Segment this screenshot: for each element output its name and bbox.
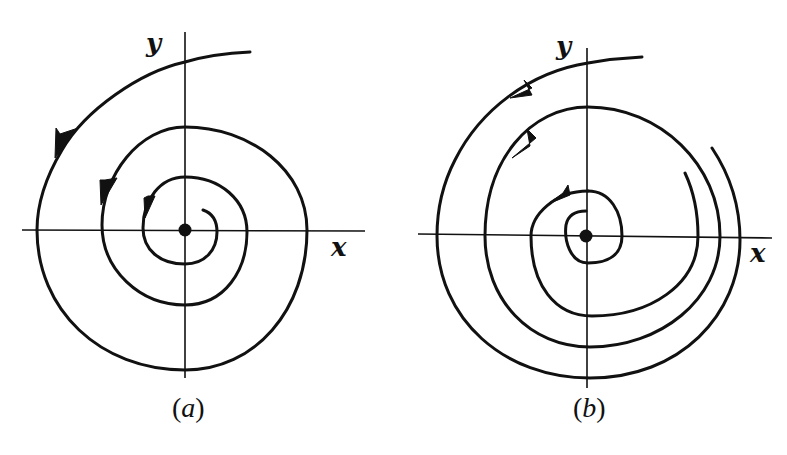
panel-a: y x (a) <box>22 28 365 423</box>
arrow-icon <box>548 185 570 204</box>
spiral-trajectory-b-middle <box>485 107 720 347</box>
arrow-icon <box>144 196 155 218</box>
arrow-icon <box>55 128 78 158</box>
arrow-icon <box>100 178 117 205</box>
spiral-trajectory-b-inner <box>531 173 698 316</box>
equilibrium-point-b <box>580 230 593 243</box>
x-axis-a <box>22 230 365 231</box>
y-axis-label-b: y <box>555 31 573 61</box>
x-axis-label-b: x <box>749 238 766 268</box>
caption-b: (b) <box>573 392 606 423</box>
spiral-trajectory-b-core <box>566 191 622 263</box>
y-axis-label-a: y <box>145 28 163 58</box>
panel-b: y x (b) <box>418 31 772 423</box>
caption-a: (a) <box>172 392 205 423</box>
spiral-trajectory-b-outer <box>437 57 740 378</box>
spiral-trajectory-a <box>37 52 307 370</box>
phase-portrait-figure: y x (a) y x (b) <box>0 0 787 455</box>
equilibrium-point-a <box>179 224 192 237</box>
x-axis-label-a: x <box>330 232 347 262</box>
